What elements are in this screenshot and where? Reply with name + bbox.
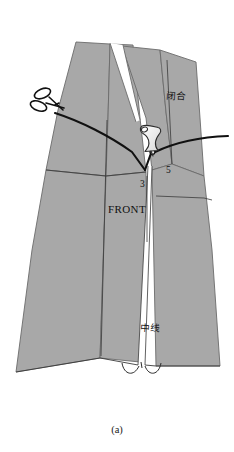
measurement-label-5: 5 — [166, 165, 171, 175]
annotation-closure: 闭合 — [166, 90, 179, 102]
panel-left-lower — [16, 170, 106, 372]
hem-notch-arcs — [122, 362, 161, 373]
figure-caption: (a) — [0, 424, 234, 435]
panel-label-front: FRONT — [108, 203, 146, 215]
pattern-figure: FRONT 3 5 闭合 中线 (a) — [0, 0, 234, 452]
pattern-drawing — [0, 0, 234, 452]
measurement-label-3: 3 — [140, 179, 145, 189]
annotation-centerline: 中线 — [140, 322, 153, 334]
panel-left-upper — [46, 42, 110, 176]
panel-right-lower — [152, 164, 220, 366]
